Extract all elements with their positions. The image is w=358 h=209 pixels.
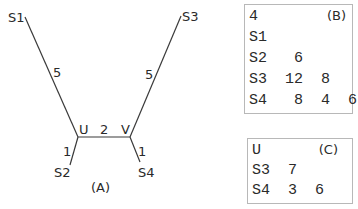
node-u: U xyxy=(79,122,89,137)
matrix-b-row: S1 xyxy=(249,30,267,46)
edge-s1-u xyxy=(25,17,78,137)
matrix-c-row: S4 3 6 xyxy=(252,183,324,199)
weight-s2-u: 1 xyxy=(63,144,71,159)
tree-diagram-a: S1 S3 U V S2 S4 5 1 2 5 1 (A) xyxy=(0,0,240,209)
matrix-c-row: S3 7 xyxy=(252,163,297,179)
node-s2: S2 xyxy=(54,165,71,180)
caption-b: (B) xyxy=(327,8,346,23)
node-s3: S3 xyxy=(182,9,199,24)
matrix-c-row: U xyxy=(252,143,261,159)
weight-s3-v: 5 xyxy=(145,67,153,82)
node-s1: S1 xyxy=(8,10,25,25)
weight-s4-v: 1 xyxy=(138,144,146,159)
weight-u-v: 2 xyxy=(100,122,108,137)
matrix-b-row: S2 6 xyxy=(249,51,303,67)
node-s4: S4 xyxy=(138,165,155,180)
caption-a: (A) xyxy=(91,180,110,195)
node-v: V xyxy=(121,122,130,137)
distance-matrix-b: (B) 4 S1 S2 6 S3 12 8 S4 8 4 6 xyxy=(244,4,353,114)
matrix-b-row: 4 xyxy=(249,9,258,25)
matrix-b-row: S4 8 4 6 xyxy=(249,93,357,109)
matrix-b-row: S3 12 8 xyxy=(249,72,330,88)
distance-matrix-c: (C) U S3 7 S4 3 6 xyxy=(247,138,353,204)
weight-s1-u: 5 xyxy=(53,65,61,80)
caption-c: (C) xyxy=(319,142,338,157)
edge-s3-v xyxy=(130,16,181,137)
